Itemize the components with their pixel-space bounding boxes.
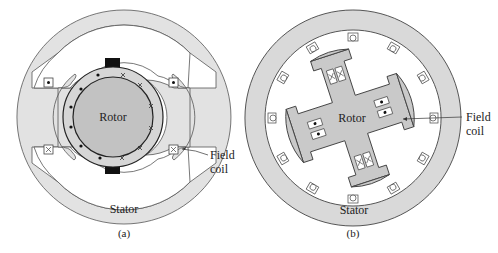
rotor-label-a: Rotor (99, 110, 126, 124)
figure-b-salient-pole-rotor: Rotor Stator Field coil (b) (245, 10, 491, 240)
field-coil-a-top-right (169, 78, 178, 87)
field-coil-a-top-left (44, 78, 53, 87)
field-coil-a-bottom-right (169, 145, 178, 154)
field-coil-label-b-2: coil (466, 124, 485, 138)
field-coil-label-b-1: Field (466, 110, 491, 124)
stator-label-b: Stator (340, 203, 369, 217)
caption-b: (b) (347, 227, 360, 240)
field-coil-label-a-2: coil (210, 162, 229, 176)
field-coil-label-a-1: Field (210, 148, 235, 162)
machine-diagrams: Rotor Stator Field coil (a) (0, 0, 498, 253)
rotor-label-b: Rotor (338, 111, 365, 125)
stator-label-a: Stator (110, 202, 139, 216)
caption-a: (a) (118, 227, 131, 240)
field-coil-a-bottom-left (44, 145, 53, 154)
figure-a-salient-pole-stator: Rotor Stator Field coil (a) (17, 10, 235, 240)
